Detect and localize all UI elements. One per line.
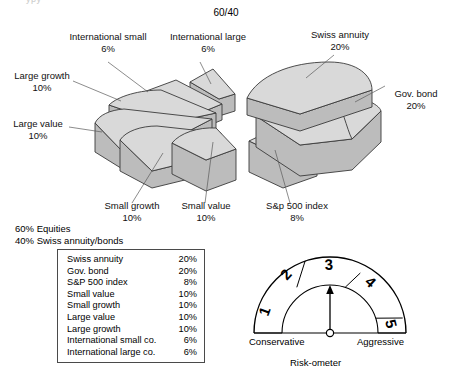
pie-label-large-growth: Large growth 10%: [6, 70, 78, 93]
gauge-divider: [345, 273, 360, 287]
table-row: Small growth10%: [58, 300, 204, 312]
gauge-label-aggressive: Aggressive: [357, 336, 404, 347]
table-row: Large growth10%: [58, 324, 204, 336]
gauge-tick-2: 2: [277, 265, 295, 283]
allocation-table: Swiss annuity20% Gov. bond20% S&P 500 in…: [57, 249, 205, 363]
table-cell-pct: 10%: [171, 324, 197, 336]
table-cell-name: S&P 500 index: [67, 277, 128, 289]
gauge-tick-1: 1: [255, 304, 274, 318]
table-cell-pct: 20%: [171, 254, 197, 266]
table-row: International small co.6%: [58, 335, 204, 347]
pie-label-international-large: International large 6%: [155, 31, 261, 54]
table-cell-name: Gov. bond: [67, 266, 109, 278]
pie-slice-small-value: [172, 128, 236, 191]
pie-label-small-value: Small value 10%: [164, 200, 248, 223]
table-row: Gov. bond20%: [58, 266, 204, 278]
chart-canvas: ypy 60/40 .tf{fill:#d9d9d9;stroke:#3a3a3…: [0, 0, 452, 380]
table-row: International large co.6%: [58, 347, 204, 359]
table-cell-name: Small growth: [67, 300, 120, 312]
table-cell-name: Large value: [67, 312, 115, 324]
note-equities: 60% Equities: [15, 223, 70, 235]
pie-label-large-value: Large value 10%: [5, 118, 71, 141]
table-row: Large value10%: [58, 312, 204, 324]
gauge-tick-4: 4: [362, 273, 380, 292]
table-row: Small value10%: [58, 289, 204, 301]
pie-label-sp500: S&p 500 index 8%: [246, 200, 348, 223]
table-row: Swiss annuity20%: [58, 254, 204, 266]
table-cell-pct: 10%: [171, 312, 197, 324]
table-cell-pct: 6%: [171, 347, 197, 359]
pie-label-international-small: International small 6%: [52, 31, 164, 54]
gauge-divider: [297, 261, 305, 288]
gauge-tick-3: 3: [324, 255, 334, 273]
gauge-caption: Risk-ometer: [290, 357, 341, 368]
table-cell-name: International small co.: [67, 335, 156, 347]
gauge-tick-5: 5: [382, 318, 401, 330]
table-cell-name: International large co.: [67, 347, 155, 359]
table-cell-name: Large growth: [67, 324, 121, 336]
pie-label-gov-bond: Gov. bond 20%: [381, 88, 451, 111]
table-cell-name: Small value: [67, 289, 115, 301]
gauge-label-conservative: Conservative: [249, 336, 304, 347]
gauge-pivot: [326, 329, 333, 336]
table-row: S&P 500 index8%: [58, 277, 204, 289]
table-cell-pct: 20%: [171, 266, 197, 278]
table-cell-name: Swiss annuity: [67, 254, 123, 266]
table-cell-pct: 8%: [171, 277, 197, 289]
leader-international-small: [108, 62, 148, 92]
gauge-needle-arrowhead: [326, 285, 334, 294]
pie-label-swiss-annuity: Swiss annuity 20%: [288, 29, 392, 52]
table-cell-pct: 10%: [171, 289, 197, 301]
table-cell-pct: 10%: [171, 300, 197, 312]
note-annuity-bonds: 40% Swiss annuity/bonds: [15, 235, 123, 247]
leader-large-growth: [73, 81, 121, 101]
table-cell-pct: 6%: [171, 335, 197, 347]
